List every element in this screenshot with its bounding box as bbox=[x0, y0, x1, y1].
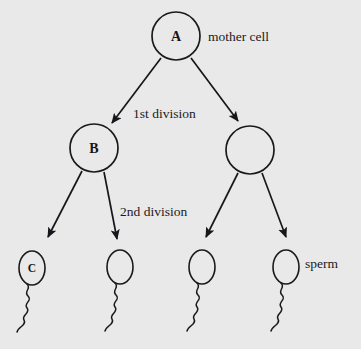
sperm-1-tail bbox=[17, 284, 29, 332]
sperm-1-label: C bbox=[28, 262, 36, 274]
daughter-cell-right-outline bbox=[226, 126, 274, 174]
daughter-cell-right[interactable] bbox=[226, 126, 274, 174]
arrow-b-to-sperm-1 bbox=[48, 171, 82, 237]
mother-cell[interactable]: A bbox=[152, 12, 200, 60]
sperm-4-head bbox=[273, 250, 299, 284]
sperm-cell-1[interactable]: C bbox=[17, 251, 45, 332]
daughter-cell-left-label: B bbox=[89, 141, 98, 156]
cell-division-diagram: A mother cell 1st division B 2nd divisio… bbox=[0, 0, 361, 349]
arrow-a-to-daughter-right bbox=[191, 58, 238, 121]
sperm-cell-3[interactable] bbox=[187, 250, 215, 331]
arrow-daughter-right-to-sperm-4 bbox=[262, 173, 286, 237]
sperm-cell-2[interactable] bbox=[105, 250, 133, 331]
arrow-b-to-sperm-2 bbox=[104, 172, 117, 239]
mother-cell-label: A bbox=[171, 29, 182, 44]
daughter-cell-left[interactable]: B bbox=[70, 124, 118, 172]
first-division-label: 1st division bbox=[133, 106, 196, 121]
second-division-label: 2nd division bbox=[120, 204, 187, 219]
diagram-canvas: A mother cell 1st division B 2nd divisio… bbox=[0, 0, 361, 349]
sperm-3-head bbox=[189, 250, 215, 284]
arrow-daughter-right-to-sperm-3 bbox=[206, 173, 238, 237]
sperm-2-head bbox=[107, 250, 133, 284]
mother-cell-annotation: mother cell bbox=[208, 29, 269, 44]
sperm-3-tail bbox=[187, 283, 199, 331]
sperm-cell-4[interactable] bbox=[271, 250, 299, 331]
sperm-2-tail bbox=[105, 283, 117, 331]
sperm-4-tail bbox=[271, 283, 283, 331]
sperm-annotation: sperm bbox=[305, 256, 338, 271]
